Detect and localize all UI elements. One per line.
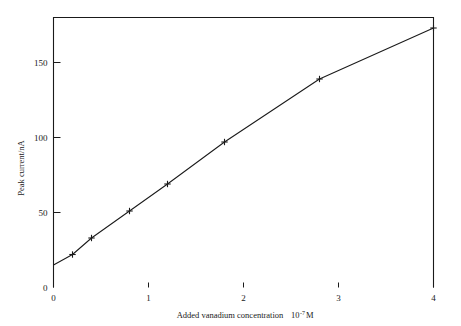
data-point-marker [316,76,322,82]
y-tick-label: 0 [43,283,48,293]
x-axis-title-factor-base: 10 [291,310,300,320]
chart-svg: 01234 050100150 Added vanadium concentra… [0,0,461,326]
x-axis-tick-labels: 01234 [51,293,436,303]
x-tick-label: 2 [241,293,246,303]
y-axis-title: Peak current/nA [16,139,26,195]
y-tick-label: 100 [34,133,48,143]
y-axis-tick-labels: 050100150 [34,58,48,293]
x-axis-ticks [54,283,434,288]
x-axis-title: Added vanadium concentration [177,310,284,320]
x-axis-title-factor-unit: M [306,310,314,320]
x-axis-title-factor-exponent: -7 [300,310,305,316]
data-series-line [54,28,434,265]
y-tick-label: 150 [34,58,48,68]
chart-figure: 01234 050100150 Added vanadium concentra… [0,0,461,326]
x-axis-title-group: Added vanadium concentration 10 -7 M [177,310,314,321]
data-series-markers [69,25,436,258]
x-tick-label: 4 [431,293,436,303]
plot-frame [54,18,434,288]
x-tick-label: 3 [336,293,341,303]
data-point-marker [430,25,436,31]
y-tick-label: 50 [39,208,49,218]
x-tick-label: 1 [146,293,151,303]
data-point-marker [126,208,132,214]
x-tick-label: 0 [51,293,56,303]
y-axis-ticks [54,63,61,213]
